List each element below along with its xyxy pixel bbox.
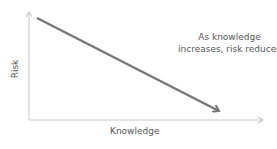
annotation-line-1: As knowledge [178,31,277,43]
y-axis-label: Risk [10,60,20,79]
x-axis-label: Knowledge [110,126,159,136]
annotation-line-2: increases, risk reduces [178,43,277,55]
annotation: As knowledge increases, risk reduces [178,31,277,55]
